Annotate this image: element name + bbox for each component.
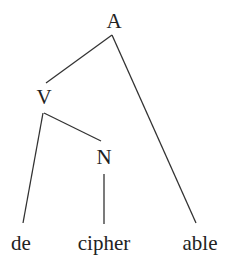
leaf-able: able <box>183 233 218 254</box>
leaf-cipher: cipher <box>78 233 130 254</box>
node-v: V <box>36 87 51 108</box>
leaf-de: de <box>11 233 31 254</box>
edge-v-de <box>23 113 43 223</box>
node-a: A <box>106 11 121 32</box>
node-n: N <box>96 147 111 168</box>
tree-edges <box>0 0 227 268</box>
edge-a-v <box>46 35 112 83</box>
edge-a-able <box>112 35 196 223</box>
edge-v-n <box>44 113 101 141</box>
